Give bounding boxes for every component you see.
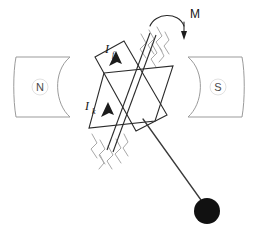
galvanometer-diagram: N S [0, 0, 257, 233]
current-arrow-upper [109, 51, 122, 66]
label-torque-symbol: M [190, 7, 200, 21]
label-current-k: I k [84, 99, 96, 116]
figure-canvas: N S [0, 0, 257, 233]
axle-hatching-lower [91, 134, 128, 169]
label-current-k-symbol: I [84, 99, 90, 113]
pendulum-group [143, 119, 220, 224]
pendulum-rod [143, 119, 201, 200]
torque-arrow-group: M [150, 7, 200, 40]
axle-line-right [113, 35, 156, 152]
north-pole-group: N [14, 57, 70, 117]
north-pole-letter: N [36, 81, 44, 93]
south-pole-group: S [188, 57, 244, 117]
south-pole-letter: S [214, 81, 221, 93]
current-arrow-lower [101, 102, 114, 117]
current-arrow-upper-head [109, 51, 122, 66]
current-arrow-lower-head [101, 102, 114, 117]
label-current-k-subscript: k [92, 107, 96, 116]
torque-arc-path [150, 15, 184, 26]
torque-arrow-head [181, 31, 187, 40]
label-current-f: I f [104, 42, 116, 59]
pendulum-bob [194, 198, 220, 224]
